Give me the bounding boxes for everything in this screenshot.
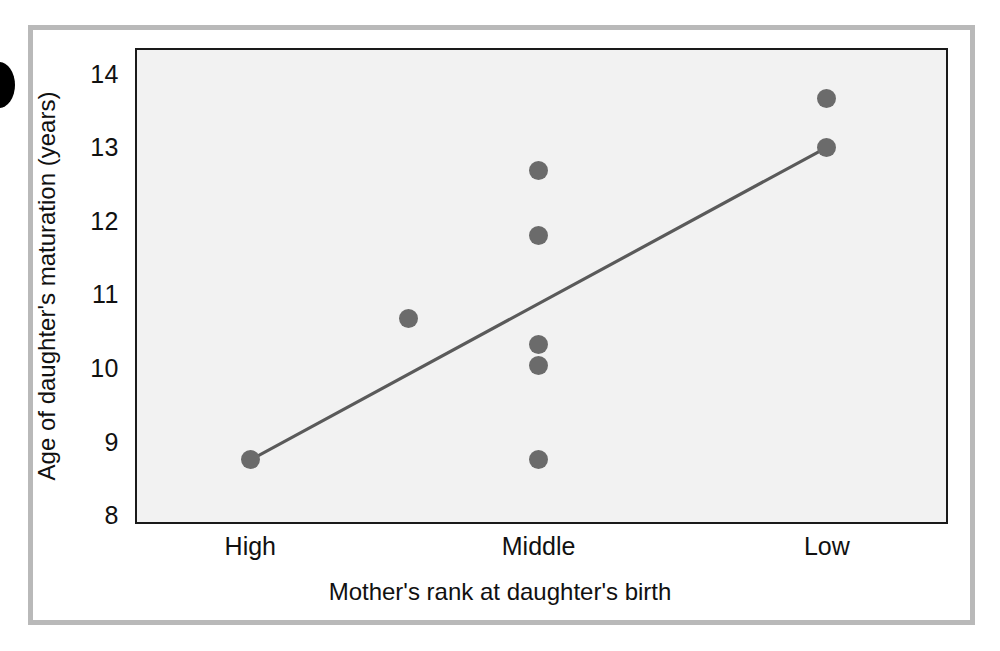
y-axis-tick-label: 12 <box>0 206 119 235</box>
y-axis-tick-label: 14 <box>0 59 119 88</box>
x-axis-tick-label: Middle <box>502 532 576 561</box>
x-axis-tick-label: High <box>225 532 276 561</box>
y-axis-tick-label: 9 <box>0 427 119 456</box>
scatter-chart: Age of daughter's maturation (years) 891… <box>0 0 1000 651</box>
y-axis-tick-label: 10 <box>0 354 119 383</box>
data-point <box>817 89 836 108</box>
data-point <box>399 309 418 328</box>
y-axis-tick-label: 11 <box>0 280 119 309</box>
y-axis-tick-label: 13 <box>0 133 119 162</box>
y-axis-tick-label: 8 <box>0 501 119 530</box>
x-axis-title: Mother's rank at daughter's birth <box>0 578 1000 606</box>
data-point <box>529 335 548 354</box>
x-axis-tick-label: Low <box>804 532 850 561</box>
